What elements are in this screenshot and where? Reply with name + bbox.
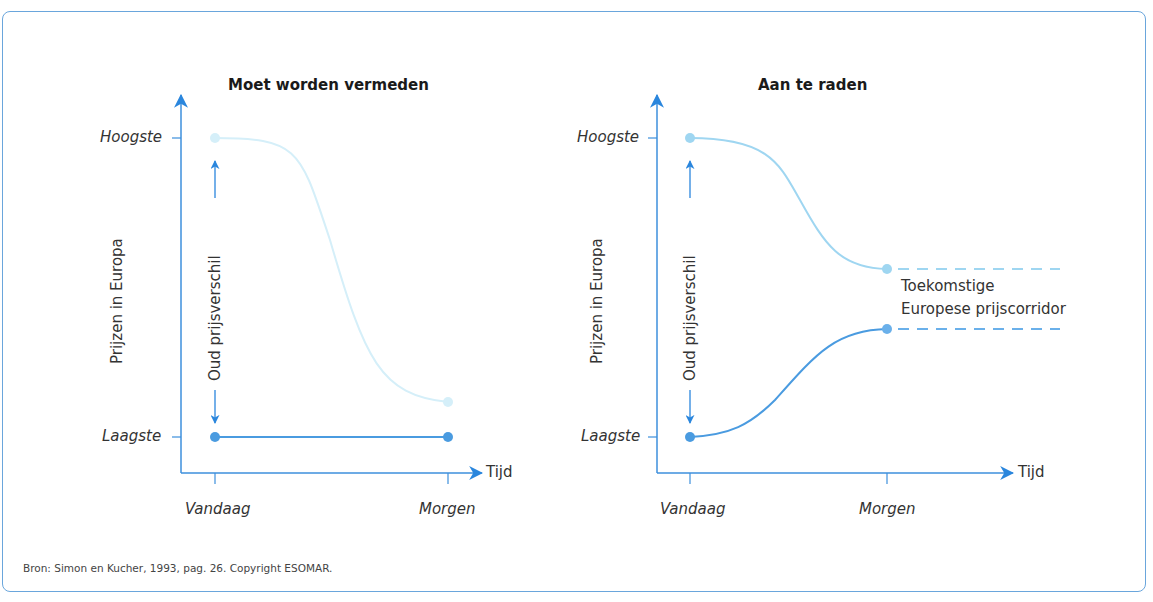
right-low-start-dot (685, 432, 695, 442)
right-low-curve (690, 329, 887, 437)
left-low-end-dot (443, 432, 453, 442)
left-y-tick-hoogste: Hoogste (100, 128, 162, 146)
left-high-curve (215, 138, 448, 402)
right-y-axis-label: Prijzen in Europa (588, 238, 606, 364)
left-y-axis-label: Prijzen in Europa (108, 238, 126, 364)
left-gap-label: Oud prijsverschil (206, 255, 224, 381)
right-high-end-dot (882, 264, 892, 274)
right-x-tick-vandaag: Vandaag (660, 500, 725, 518)
left-high-start-dot (210, 133, 220, 143)
left-high-end-dot (443, 397, 453, 407)
corridor-label-line1: Toekomstige (901, 277, 995, 295)
left-x-axis-label: Tijd (486, 463, 513, 481)
right-low-end-dot (882, 324, 892, 334)
right-x-tick-morgen: Morgen (859, 500, 916, 518)
right-high-start-dot (685, 133, 695, 143)
left-x-tick-morgen: Morgen (419, 500, 476, 518)
right-gap-label: Oud prijsverschil (681, 255, 699, 381)
source-caption: Bron: Simon en Kucher, 1993, pag. 26. Co… (23, 562, 332, 574)
left-y-tick-laagste: Laagste (102, 427, 161, 445)
right-y-tick-hoogste: Hoogste (577, 128, 639, 146)
left-x-tick-vandaag: Vandaag (185, 500, 250, 518)
right-chart (648, 95, 1060, 484)
corridor-label-line2: Europese prijscorridor (901, 300, 1066, 318)
right-x-axis-label: Tijd (1018, 463, 1045, 481)
right-y-tick-laagste: Laagste (581, 427, 640, 445)
left-low-start-dot (210, 432, 220, 442)
right-high-curve (690, 138, 887, 269)
